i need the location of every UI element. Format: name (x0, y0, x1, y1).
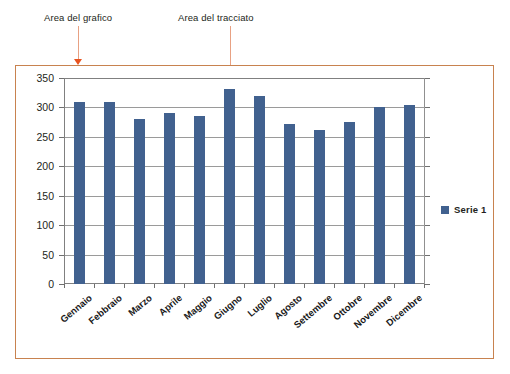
x-axis-tick (364, 284, 365, 288)
x-axis-tick (154, 284, 155, 288)
x-axis-tick (394, 284, 395, 288)
bar[interactable] (344, 122, 355, 284)
y-axis-tick-label: 100 (16, 219, 54, 231)
bar[interactable] (254, 96, 265, 284)
bar[interactable] (284, 124, 295, 284)
bar[interactable] (74, 102, 85, 284)
bar-slot (334, 78, 364, 284)
callout-arrow-chart-area (74, 26, 83, 66)
y-axis-tick-right (425, 196, 430, 197)
y-axis-tick-label: 150 (16, 190, 54, 202)
y-axis-tick-right (425, 166, 430, 167)
bar-slot (394, 78, 424, 284)
bar[interactable] (164, 113, 175, 284)
bar-slot (304, 78, 334, 284)
bar-slot (244, 78, 274, 284)
x-axis-tick (274, 284, 275, 288)
x-axis-tick (184, 284, 185, 288)
y-axis-tick-label: 300 (16, 101, 54, 113)
y-axis-tick-right (425, 78, 430, 79)
legend[interactable]: Serie 1 (441, 204, 487, 215)
y-axis-tick-right (425, 255, 430, 256)
x-axis-tick (124, 284, 125, 288)
bar-slot (364, 78, 394, 284)
bar[interactable] (224, 89, 235, 284)
bar-slot (184, 78, 214, 284)
y-axis-tick-right (425, 225, 430, 226)
bar-slot (64, 78, 94, 284)
y-axis-tick-label: 50 (16, 249, 54, 261)
y-axis-tick-right (425, 284, 430, 285)
legend-swatch-serie-1 (441, 206, 449, 214)
legend-label-serie-1: Serie 1 (454, 204, 487, 215)
x-axis-tick (244, 284, 245, 288)
bar-slot (274, 78, 304, 284)
bar[interactable] (104, 102, 115, 284)
bar[interactable] (134, 119, 145, 284)
bar-slot (94, 78, 124, 284)
y-axis-tick-label: 200 (16, 160, 54, 172)
x-axis-tick (94, 284, 95, 288)
y-axis-tick-right (425, 107, 430, 108)
bar[interactable] (314, 130, 325, 284)
callout-label-plot-area: Area del tracciato (178, 12, 254, 23)
x-axis-tick (214, 284, 215, 288)
bar[interactable] (404, 105, 415, 285)
x-axis-tick (424, 284, 425, 288)
bar-slot (154, 78, 184, 284)
y-axis-tick-label: 0 (16, 278, 54, 290)
bar[interactable] (374, 107, 385, 284)
bar-slot (124, 78, 154, 284)
y-axis-tick-label: 350 (16, 72, 54, 84)
bar[interactable] (194, 116, 205, 284)
chart-area[interactable]: 050100150200250300350 GennaioFebbraioMar… (15, 65, 494, 359)
plot-area-right-border (424, 78, 425, 284)
x-axis-tick (334, 284, 335, 288)
bar-slot (214, 78, 244, 284)
callout-label-chart-area: Area del grafico (44, 12, 112, 23)
x-axis-tick (304, 284, 305, 288)
arrow-shaft (78, 26, 79, 60)
y-axis-tick-label: 250 (16, 131, 54, 143)
x-axis-tick (64, 284, 65, 288)
bar-series-serie-1[interactable] (64, 78, 424, 284)
y-axis-tick-right (425, 137, 430, 138)
